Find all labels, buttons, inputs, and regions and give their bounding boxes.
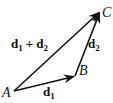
point-c-label: C bbox=[102, 5, 112, 20]
point-a-label: A bbox=[1, 85, 11, 100]
vector-sum-arrow bbox=[14, 13, 99, 92]
vector-sum-label: d1+d2 bbox=[11, 36, 48, 53]
vector-d1-label: d1 bbox=[43, 84, 55, 101]
point-b-label: B bbox=[79, 63, 88, 78]
vector-d2-label: d2 bbox=[88, 36, 100, 53]
vector-diagram: A B C d1 d2 d1+d2 bbox=[0, 0, 113, 103]
